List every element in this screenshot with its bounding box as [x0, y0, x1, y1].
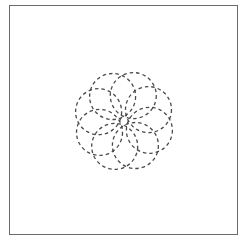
petal-outline — [112, 123, 158, 169]
flower-diagram — [0, 0, 245, 245]
petal-outline — [77, 109, 123, 155]
petal-outline — [126, 107, 172, 153]
petal-outline — [90, 74, 136, 120]
petal-outline — [126, 87, 172, 133]
petal-outline — [92, 123, 138, 169]
petal-outline — [110, 73, 156, 119]
petal-outline — [76, 89, 122, 135]
petals-group — [76, 73, 173, 170]
